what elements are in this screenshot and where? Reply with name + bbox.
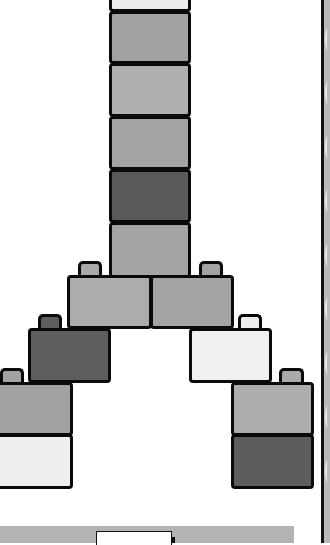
side-strip <box>324 0 330 543</box>
side-arc-decoration <box>325 136 330 158</box>
right-brick-3 <box>231 382 314 436</box>
right-brick-4 <box>231 434 314 489</box>
column-brick-3 <box>109 63 191 117</box>
column-brick-5 <box>109 169 191 223</box>
side-arc-decoration <box>325 406 330 428</box>
bottom-box-shadow <box>172 537 175 543</box>
side-arc-decoration <box>325 244 330 266</box>
side-arc-decoration <box>325 82 330 104</box>
left-brick-1 <box>67 275 152 329</box>
left-brick-3 <box>0 382 73 436</box>
left-brick-4 <box>0 434 73 489</box>
side-arc-decoration <box>325 352 330 374</box>
side-arc-decoration <box>325 190 330 212</box>
side-arc-decoration <box>325 298 330 320</box>
left-brick-2 <box>28 328 111 383</box>
column-brick-6 <box>109 222 191 278</box>
side-arc-decoration <box>325 28 330 50</box>
bottom-box <box>96 531 172 545</box>
column-brick-4 <box>109 116 191 170</box>
right-brick-1 <box>150 275 234 329</box>
right-brick-2 <box>189 328 272 383</box>
side-arc-decoration <box>325 460 330 482</box>
column-brick-2 <box>109 11 191 64</box>
